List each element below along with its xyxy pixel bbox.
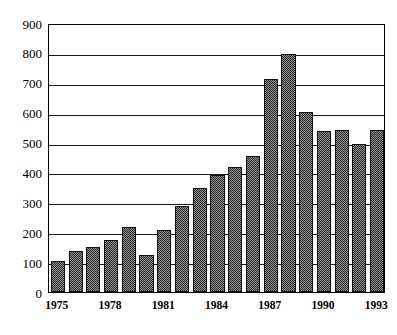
x-axis-tick-labels: 1975197819811984198719901993 (48, 299, 385, 321)
bar (139, 255, 153, 292)
bar (335, 130, 349, 292)
x-axis-tick-label: 1990 (311, 299, 334, 311)
y-axis-tick-label: 600 (2, 107, 42, 120)
x-axis-tick-label: 1978 (99, 299, 122, 311)
y-axis-tick-label: 0 (2, 287, 42, 300)
bar (317, 131, 331, 292)
bar (193, 188, 207, 292)
bar (86, 247, 100, 292)
y-axis-tick-label: 800 (2, 47, 42, 60)
bar (228, 167, 242, 292)
y-axis-tick-labels: 0100200300400500600700800900 (0, 0, 42, 335)
y-axis-tick-label: 300 (2, 197, 42, 210)
bars-container (49, 25, 384, 292)
y-axis-tick-label: 100 (2, 257, 42, 270)
x-axis-tick-label: 1993 (365, 299, 388, 311)
y-axis-tick-label: 400 (2, 167, 42, 180)
x-axis-tick-label: 1984 (205, 299, 228, 311)
x-axis-tick-label: 1987 (258, 299, 281, 311)
y-axis-tick-label: 900 (2, 18, 42, 31)
bar (69, 251, 83, 292)
bar (299, 112, 313, 292)
bar (157, 230, 171, 292)
bar (352, 144, 366, 292)
y-axis-tick-label: 500 (2, 137, 42, 150)
plot-area (48, 24, 385, 293)
bar (210, 175, 224, 292)
bar (175, 206, 189, 292)
bar (264, 79, 278, 292)
x-axis-tick-label: 1981 (152, 299, 175, 311)
bar-chart-figure: 0100200300400500600700800900 19751978198… (0, 0, 397, 335)
x-axis-tick-label: 1975 (45, 299, 68, 311)
y-axis-tick-label: 200 (2, 227, 42, 240)
bar (281, 54, 295, 293)
bar (370, 130, 384, 292)
bar (122, 227, 136, 292)
bar (246, 156, 260, 292)
bar (104, 240, 118, 292)
bar (51, 261, 65, 292)
y-axis-tick-label: 700 (2, 77, 42, 90)
